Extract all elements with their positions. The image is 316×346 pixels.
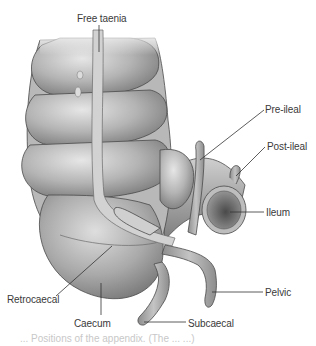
label-free-taenia: Free taenia (77, 13, 127, 24)
pelvic-appendix (162, 245, 216, 307)
label-retrocaecal: Retrocaecal (7, 294, 59, 305)
figure-caption-partial: ... Positions of the appendix. (The ... … (20, 334, 195, 344)
label-caecum: Caecum (74, 318, 111, 329)
label-pelvic: Pelvic (265, 287, 291, 298)
label-ileum: Ileum (266, 207, 290, 218)
leader-pre-ileal (200, 110, 264, 160)
label-post-ileal: Post-ileal (267, 141, 307, 152)
leader-post-ileal (236, 147, 265, 176)
label-subcaecal: Subcaecal (188, 318, 234, 329)
label-pre-ileal: Pre-ileal (265, 104, 301, 115)
